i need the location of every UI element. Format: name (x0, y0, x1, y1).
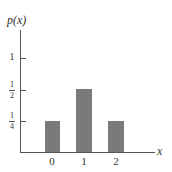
x-axis-label: x (157, 144, 162, 159)
x-axis-line (20, 152, 155, 153)
y-tick-quarter (20, 121, 26, 122)
y-tick-half (20, 90, 26, 91)
numerator: 1 (10, 112, 14, 120)
denominator: 2 (10, 92, 14, 100)
numerator: 1 (10, 81, 14, 89)
bar-1 (76, 89, 92, 152)
y-tick-label-half: 1 2 (5, 81, 19, 100)
x-tick-label-1: 1 (77, 155, 91, 167)
bar-2 (108, 121, 124, 152)
y-axis-label: p(x) (7, 13, 26, 28)
y-tick-1 (20, 58, 26, 59)
y-axis-line (20, 30, 21, 153)
denominator: 4 (10, 123, 14, 131)
y-tick-label-1: 1 (5, 51, 19, 62)
bar-0 (45, 121, 60, 152)
x-tick-label-2: 2 (109, 155, 123, 167)
y-tick-label-quarter: 1 4 (5, 112, 19, 131)
x-tick-label-0: 0 (45, 155, 59, 167)
